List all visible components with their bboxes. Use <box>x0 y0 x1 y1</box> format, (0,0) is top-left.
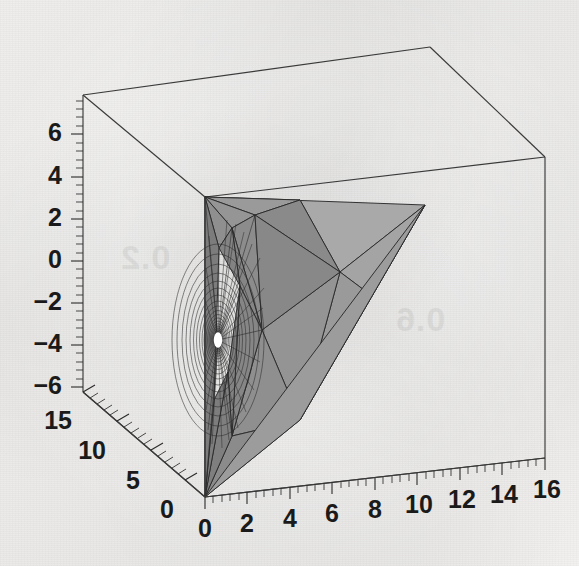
box-edge-top-front-right <box>205 157 545 197</box>
x-tick-label: 14 <box>490 480 518 508</box>
y-tick-label: 0 <box>160 495 174 523</box>
z-tick-label: −6 <box>33 371 62 399</box>
y-tick-label: 10 <box>78 436 106 464</box>
x-axis-tick-labels: 0 2 4 6 8 10 12 14 16 <box>198 475 561 542</box>
y-axis-tick-labels: 15 10 5 0 <box>44 406 174 523</box>
x-tick-label: 12 <box>448 485 476 513</box>
x-tick-label: 6 <box>325 499 339 527</box>
y-tick-label: 5 <box>126 466 140 494</box>
z-tick-label: 6 <box>48 118 62 146</box>
figure-3d-surface-plot: 0.2 0.6 <box>0 0 579 566</box>
x-tick-label: 4 <box>283 504 297 532</box>
surface-mesh <box>172 197 425 497</box>
box-edge-top-front-left <box>83 95 205 197</box>
y-axis-ticks <box>83 385 197 480</box>
z-tick-label: −4 <box>33 329 62 357</box>
x-tick-label: 10 <box>405 490 433 518</box>
z-axis-tick-labels: 6 4 2 0 −2 −4 −6 <box>33 118 62 399</box>
z-axis-ticks <box>71 101 83 387</box>
y-tick-label: 15 <box>44 406 72 434</box>
z-tick-label: 0 <box>48 245 62 273</box>
singularity-hole <box>214 332 222 348</box>
x-tick-label: 8 <box>368 495 382 523</box>
plot-canvas: 6 4 2 0 −2 −4 −6 <box>0 0 579 566</box>
x-tick-label: 0 <box>198 514 212 542</box>
box-edge-top-back-right <box>430 47 545 157</box>
box-edge-top-back-left <box>83 47 430 95</box>
z-tick-label: −2 <box>33 287 62 315</box>
z-tick-label: 2 <box>48 203 62 231</box>
x-tick-label: 2 <box>240 509 254 537</box>
x-tick-label: 16 <box>533 475 561 503</box>
z-tick-label: 4 <box>48 161 62 189</box>
